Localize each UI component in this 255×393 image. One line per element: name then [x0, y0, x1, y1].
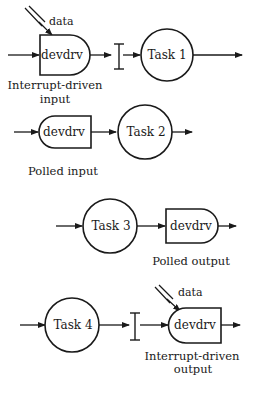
row-interrupt-driven-input: data devdrv Interrupt-driven input Task … [8, 6, 242, 106]
device-label: devdrv [41, 48, 83, 62]
data-label: data [178, 286, 203, 299]
caption-line1: Interrupt-driven [8, 78, 103, 92]
row-polled-input: devdrv Polled input Task 2 [14, 105, 192, 178]
task-label: Task 2 [126, 125, 165, 139]
lightning-icon [155, 285, 180, 311]
data-label: data [49, 15, 74, 28]
queue-icon [114, 44, 124, 69]
row-interrupt-driven-output: Task 4 data devdrv Interrupt-driven outp… [20, 285, 240, 376]
device-label: devdrv [174, 318, 216, 332]
task-label: Task 1 [147, 48, 186, 62]
caption-line1: Interrupt-driven [145, 349, 240, 363]
device-label: devdrv [170, 219, 212, 233]
device-driver-diagram: data devdrv Interrupt-driven input Task … [0, 0, 255, 393]
caption-line2: output [174, 362, 213, 376]
task-label: Task 4 [53, 318, 92, 332]
row-polled-output: Task 3 devdrv Polled output [56, 199, 236, 268]
device-label: devdrv [43, 125, 85, 139]
task-label: Task 3 [91, 219, 130, 233]
caption: Polled input [28, 164, 98, 178]
caption: Polled output [152, 254, 230, 268]
lightning-icon [25, 6, 52, 35]
queue-icon [130, 313, 140, 340]
caption-line2: input [40, 92, 71, 106]
